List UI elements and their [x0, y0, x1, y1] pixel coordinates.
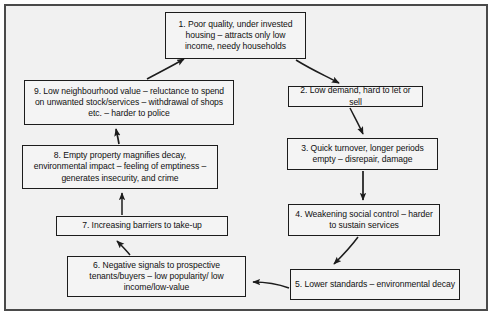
- diagram-canvas: 1. Poor quality, under invested housing …: [0, 0, 492, 319]
- node-8-label: 8. Empty property magnifies decay, envir…: [27, 150, 213, 184]
- node-1-label: 1. Poor quality, under invested housing …: [170, 19, 301, 53]
- node-3-label: 3. Quick turnover, longer periods empty …: [292, 143, 433, 165]
- node-7-label: 7. Increasing barriers to take-up: [61, 220, 223, 231]
- node-7[interactable]: 7. Increasing barriers to take-up: [56, 216, 228, 236]
- node-2-label: 2. Low demand, hard to let or sell: [293, 85, 418, 107]
- node-5-label: 5. Lower standards – environmental decay: [295, 279, 455, 290]
- node-1[interactable]: 1. Poor quality, under invested housing …: [165, 12, 306, 59]
- node-3[interactable]: 3. Quick turnover, longer periods empty …: [287, 138, 438, 170]
- node-2[interactable]: 2. Low demand, hard to let or sell: [288, 86, 423, 107]
- node-8[interactable]: 8. Empty property magnifies decay, envir…: [22, 145, 218, 189]
- node-5[interactable]: 5. Lower standards – environmental decay: [290, 269, 460, 300]
- node-6-label: 6. Negative signals to prospective tenan…: [72, 260, 241, 294]
- node-4[interactable]: 4. Weakening social control – harder to …: [288, 204, 440, 236]
- node-9-label: 9. Low neighbourhood value – reluctance …: [29, 86, 229, 120]
- node-9[interactable]: 9. Low neighbourhood value – reluctance …: [24, 80, 234, 125]
- node-6[interactable]: 6. Negative signals to prospective tenan…: [67, 256, 246, 297]
- node-4-label: 4. Weakening social control – harder to …: [293, 209, 435, 231]
